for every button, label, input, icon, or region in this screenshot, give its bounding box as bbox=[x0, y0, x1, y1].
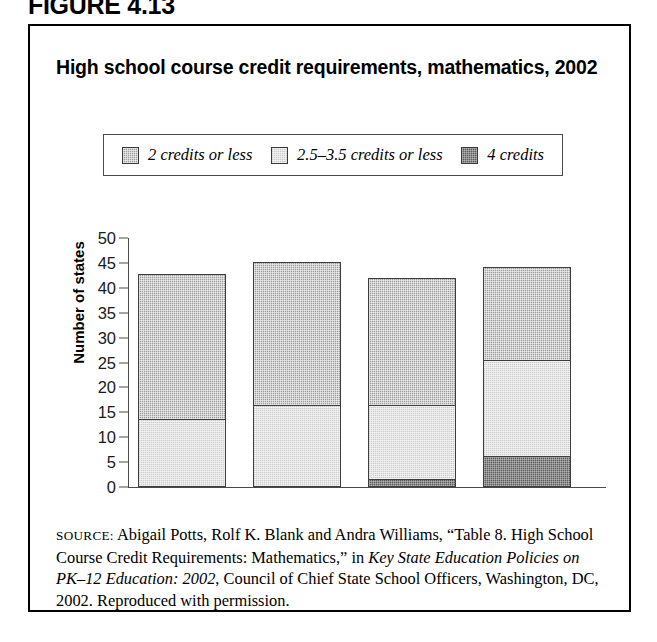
y-axis-ticks: 05101520253035404550 bbox=[66, 238, 128, 486]
y-tick-mark-40 bbox=[119, 287, 128, 288]
y-tick-mark-5 bbox=[119, 462, 128, 463]
y-tick-label-5: 5 bbox=[82, 453, 116, 472]
figure-page: FIGURE 4.13 High school course credit re… bbox=[0, 0, 657, 642]
y-tick-mark-0 bbox=[119, 487, 128, 488]
y-tick-mark-35 bbox=[119, 312, 128, 313]
y-tick-label-35: 35 bbox=[82, 303, 116, 322]
legend-label-2-credits-or-less: 2 credits or less bbox=[148, 145, 252, 165]
y-tick-label-30: 30 bbox=[82, 328, 116, 347]
y-tick-label-20: 20 bbox=[82, 378, 116, 397]
figure-label: FIGURE 4.13 bbox=[28, 0, 175, 20]
bar-3 bbox=[368, 279, 456, 487]
y-tick-mark-20 bbox=[119, 387, 128, 388]
bar-4 bbox=[483, 268, 571, 487]
y-tick-mark-45 bbox=[119, 262, 128, 263]
bar-2-segment-2-5-3-5-credits-or-less bbox=[253, 405, 341, 487]
bar-4-segment-2-5-3-5-credits-or-less bbox=[483, 360, 571, 457]
y-tick-mark-10 bbox=[119, 437, 128, 438]
legend-label-2point5-3point5-credits: 2.5–3.5 credits or less bbox=[297, 145, 443, 165]
y-tick-mark-30 bbox=[119, 337, 128, 338]
bar-2-segment-2-credits-or-less bbox=[253, 262, 341, 406]
legend-swatch-icon-dark bbox=[461, 147, 478, 164]
legend-label-4-credits: 4 credits bbox=[487, 145, 544, 165]
bar-series-group bbox=[129, 238, 606, 487]
source-note: SOURCE: Abigail Potts, Rolf K. Blank and… bbox=[56, 524, 608, 611]
legend-swatch-icon-medium bbox=[122, 147, 139, 164]
bar-3-segment-2-5-3-5-credits-or-less bbox=[368, 405, 456, 480]
bar-1-segment-2-credits-or-less bbox=[138, 274, 226, 419]
y-tick-mark-25 bbox=[119, 362, 128, 363]
y-tick-label-45: 45 bbox=[82, 253, 116, 272]
figure-frame: High school course credit requirements, … bbox=[28, 24, 631, 612]
y-tick-label-0: 0 bbox=[82, 478, 116, 497]
legend-item-2point5-3point5-credits: 2.5–3.5 credits or less bbox=[271, 145, 443, 165]
bar-1-segment-2-5-3-5-credits-or-less bbox=[138, 419, 226, 487]
legend-swatch-icon-light bbox=[271, 147, 288, 164]
bar-3-segment-2-credits-or-less bbox=[368, 278, 456, 406]
y-tick-label-15: 15 bbox=[82, 403, 116, 422]
chart-legend: 2 credits or less 2.5–3.5 credits or les… bbox=[103, 134, 563, 176]
y-tick-label-10: 10 bbox=[82, 428, 116, 447]
y-tick-mark-50 bbox=[119, 238, 128, 239]
y-tick-mark-15 bbox=[119, 412, 128, 413]
source-prefix: SOURCE: bbox=[56, 528, 114, 543]
bar-1 bbox=[138, 275, 226, 487]
bar-4-segment-4-credits bbox=[483, 456, 571, 487]
x-axis-line bbox=[128, 487, 606, 488]
plot-area: Number of states 05101520253035404550 bbox=[30, 196, 633, 516]
y-tick-label-25: 25 bbox=[82, 353, 116, 372]
bar-3-segment-4-credits bbox=[368, 479, 456, 487]
y-tick-label-40: 40 bbox=[82, 278, 116, 297]
bar-2 bbox=[253, 263, 341, 487]
legend-item-4-credits: 4 credits bbox=[461, 145, 544, 165]
chart-title: High school course credit requirements, … bbox=[56, 56, 597, 79]
legend-item-2-credits-or-less: 2 credits or less bbox=[122, 145, 252, 165]
bar-4-segment-2-credits-or-less bbox=[483, 267, 571, 361]
y-tick-label-50: 50 bbox=[82, 229, 116, 248]
